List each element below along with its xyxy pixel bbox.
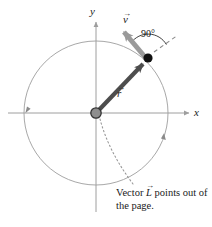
angular-momentum-arrow-accent: → [146, 182, 152, 190]
caption-text-after-symbol: points out [152, 187, 196, 198]
velocity-vector-arrow-accent: → [123, 10, 128, 18]
velocity-vector-symbol-wrap: → v [123, 14, 128, 25]
particle-dot [143, 53, 152, 62]
x-axis-label: x [194, 107, 199, 118]
angular-momentum-symbol-wrap: → L [146, 186, 152, 199]
caption-text-before-symbol: Vector [116, 187, 146, 198]
caption-leader-dotted-curve [100, 119, 133, 184]
physics-figure-circular-motion-angular-momentum: y x → r → v 90° Vector → L points out of… [0, 0, 212, 227]
origin-marker [91, 108, 101, 118]
angle-label: 90° [141, 29, 155, 39]
position-vector-label: → r [117, 88, 121, 99]
velocity-vector-label: → v [123, 14, 128, 25]
y-axis-label: y [90, 6, 95, 17]
path-direction-arrowhead-left [25, 107, 30, 114]
figure-caption: Vector → L points out of the page. [116, 186, 210, 212]
position-vector-symbol-wrap: → r [117, 88, 121, 99]
position-vector-arrow-accent: → [117, 84, 121, 92]
